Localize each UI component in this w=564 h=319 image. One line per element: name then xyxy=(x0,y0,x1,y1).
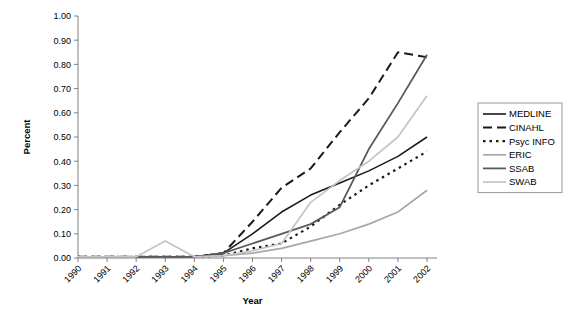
y-tick-label: 0.30 xyxy=(53,181,71,191)
series-line-cinahl xyxy=(78,52,427,256)
legend: MEDLINECINAHLPsyc INFOERICSSABSWAB xyxy=(478,103,562,193)
x-tick-label: 1998 xyxy=(295,263,316,284)
series-line-eric xyxy=(78,190,427,257)
legend-label: CINAHL xyxy=(509,122,544,133)
y-tick-label: 0.80 xyxy=(53,60,71,70)
chart-figure: 0.000.100.200.300.400.500.600.700.800.90… xyxy=(0,0,564,319)
series-line-swab xyxy=(78,96,427,257)
x-tick-label: 1999 xyxy=(324,263,345,284)
x-tick-label: 1995 xyxy=(208,263,229,284)
x-tick-label: 1994 xyxy=(179,263,200,284)
legend-label: Psyc INFO xyxy=(509,136,555,147)
x-tick-label: 2001 xyxy=(382,263,403,284)
legend-label: SWAB xyxy=(509,176,537,187)
y-tick-label: 0.40 xyxy=(53,157,71,167)
line-chart: 0.000.100.200.300.400.500.600.700.800.90… xyxy=(0,0,564,319)
legend-label: ERIC xyxy=(509,149,532,160)
x-tick-labels: 1990199119921993199419951996199719981999… xyxy=(62,263,432,284)
data-series-group xyxy=(78,52,427,256)
x-tick-label: 1993 xyxy=(149,263,170,284)
y-tick-labels: 0.000.100.200.300.400.500.600.700.800.90… xyxy=(53,11,71,263)
x-tick-label: 2002 xyxy=(411,263,432,284)
x-axis-title: Year xyxy=(242,295,262,306)
x-tick-label: 1996 xyxy=(237,263,258,284)
x-tick-marks xyxy=(78,258,427,262)
y-tick-label: 0.60 xyxy=(53,108,71,118)
x-tick-label: 2000 xyxy=(353,263,374,284)
x-tick-label: 1992 xyxy=(120,263,141,284)
y-tick-label: 0.70 xyxy=(53,84,71,94)
y-tick-label: 0.00 xyxy=(53,253,71,263)
y-tick-label: 0.10 xyxy=(53,229,71,239)
x-axis-group: 1990199119921993199419951996199719981999… xyxy=(62,258,437,306)
y-tick-marks xyxy=(74,16,78,258)
y-tick-label: 0.50 xyxy=(53,132,71,142)
x-tick-label: 1991 xyxy=(91,263,112,284)
x-tick-label: 1990 xyxy=(62,263,83,284)
x-tick-label: 1997 xyxy=(266,263,287,284)
legend-label: MEDLINE xyxy=(509,108,551,119)
series-line-medline xyxy=(78,137,427,257)
y-axis-group: 0.000.100.200.300.400.500.600.700.800.90… xyxy=(21,11,78,263)
y-axis-title: Percent xyxy=(21,119,32,155)
legend-label: SSAB xyxy=(509,163,534,174)
y-tick-label: 0.90 xyxy=(53,36,71,46)
y-tick-label: 0.20 xyxy=(53,205,71,215)
y-tick-label: 1.00 xyxy=(53,11,71,21)
